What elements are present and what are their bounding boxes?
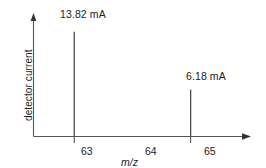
y-axis-title: detector current [24,49,34,121]
peak-label-63: 13.82 mA [60,9,106,20]
x-axis-title: m/z [121,157,138,168]
x-tick-label-65: 65 [204,146,216,157]
y-axis-arrowhead-icon [31,13,37,21]
x-axis-arrowhead-icon [242,133,251,139]
x-tick-label-63: 63 [81,146,93,157]
mass-spectrum-figure: 13.82 mA 6.18 mA 63 64 65 m/z detector c… [0,0,266,168]
plot-area [0,0,266,168]
x-tick-label-64: 64 [145,146,157,157]
peak-label-65: 6.18 mA [186,71,226,82]
